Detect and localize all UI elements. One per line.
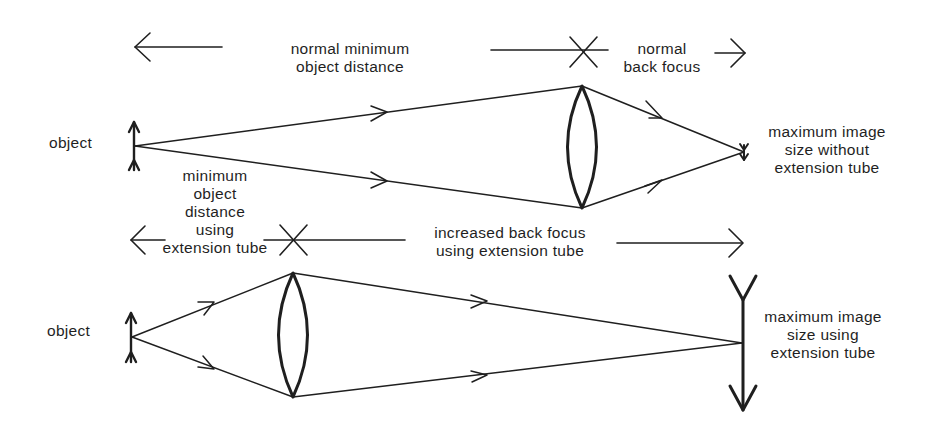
bottom-backfocus-arrow-right-icon bbox=[617, 229, 743, 257]
label-line: maximum image bbox=[748, 308, 898, 326]
label-line: using bbox=[155, 221, 275, 239]
bottom-image-label: maximum image size using extension tube bbox=[748, 308, 898, 362]
label-line: maximum image bbox=[752, 123, 902, 141]
label-line: object bbox=[49, 134, 109, 152]
label-line: extension tube bbox=[752, 159, 902, 177]
top-back-focus-label: normal back focus bbox=[612, 40, 712, 76]
label-line: using extension tube bbox=[410, 242, 610, 260]
label-line: object distance bbox=[250, 58, 450, 76]
label-line: extension tube bbox=[748, 344, 898, 362]
label-line: object bbox=[47, 322, 107, 340]
label-line: normal bbox=[612, 40, 712, 58]
top-object-label: object bbox=[49, 134, 109, 152]
top-distance-arrow-left-icon bbox=[135, 33, 222, 61]
bottom-back-focus-label: increased back focus using extension tub… bbox=[410, 224, 610, 260]
label-line: extension tube bbox=[155, 239, 275, 257]
bottom-min-object-distance-label: minimum object distance using extension … bbox=[155, 167, 275, 257]
bottom-lens-icon bbox=[279, 273, 308, 397]
top-image-label: maximum image size without extension tub… bbox=[752, 123, 902, 177]
top-image-arrow-icon bbox=[740, 144, 748, 160]
label-line: object bbox=[155, 185, 275, 203]
top-backfocus-arrow-right-icon bbox=[715, 39, 745, 67]
label-line: size without bbox=[752, 141, 902, 159]
top-lens-icon bbox=[568, 86, 597, 208]
top-min-object-distance-label: normal minimum object distance bbox=[250, 40, 450, 76]
label-line: size using bbox=[748, 326, 898, 344]
bottom-rays bbox=[132, 273, 742, 397]
bottom-object-label: object bbox=[47, 322, 107, 340]
label-line: normal minimum bbox=[250, 40, 450, 58]
label-line: distance bbox=[155, 203, 275, 221]
label-line: increased back focus bbox=[410, 224, 610, 242]
label-line: minimum bbox=[155, 167, 275, 185]
label-line: back focus bbox=[612, 58, 712, 76]
top-focal-cross-icon bbox=[570, 37, 597, 67]
